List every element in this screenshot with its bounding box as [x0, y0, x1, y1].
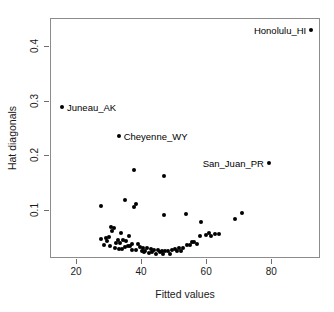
- y-tick-mark: [44, 46, 49, 47]
- x-tick-mark: [76, 259, 77, 264]
- data-point: [147, 251, 151, 255]
- y-tick-mark: [44, 101, 49, 102]
- data-point: [154, 252, 158, 256]
- x-tick-mark: [141, 259, 142, 264]
- y-tick-label: 0.1: [29, 203, 40, 217]
- point-label-san-juan-pr: San_Juan_PR: [203, 158, 264, 169]
- data-point: [102, 243, 106, 247]
- data-point: [113, 246, 117, 250]
- labeled-data-point: [267, 161, 271, 165]
- point-label-juneau-ak: Juneau_AK: [67, 102, 116, 113]
- data-point: [110, 229, 114, 233]
- y-axis-title: Hat diagonals: [6, 106, 18, 170]
- data-point: [168, 252, 172, 256]
- data-point: [130, 248, 134, 252]
- y-tick-mark: [44, 155, 49, 156]
- x-axis-title: Fitted values: [155, 288, 215, 300]
- x-tick-label: 60: [201, 266, 212, 277]
- labeled-data-point: [60, 105, 64, 109]
- data-point: [162, 213, 166, 217]
- data-point: [123, 198, 127, 202]
- data-point: [217, 232, 221, 236]
- x-tick-label: 80: [266, 266, 277, 277]
- data-point: [179, 249, 183, 253]
- data-point: [118, 241, 122, 245]
- data-point: [132, 205, 136, 209]
- data-point: [142, 250, 146, 254]
- data-point: [204, 233, 208, 237]
- data-point: [117, 247, 121, 251]
- data-point: [132, 168, 136, 172]
- data-point: [199, 220, 203, 224]
- data-point: [198, 234, 202, 238]
- data-point: [99, 237, 103, 241]
- y-tick-label: 0.4: [29, 39, 40, 53]
- data-point: [162, 174, 166, 178]
- data-point: [120, 247, 124, 251]
- data-point: [134, 248, 138, 252]
- data-point: [124, 239, 128, 243]
- x-tick-label: 20: [70, 266, 81, 277]
- x-tick-label: 40: [136, 266, 147, 277]
- labeled-data-point: [117, 134, 121, 138]
- x-tick-mark: [206, 259, 207, 264]
- y-tick-label: 0.3: [29, 94, 40, 108]
- point-label-honolulu-hi: Honolulu_HI: [254, 24, 306, 35]
- plot-area: Honolulu_HIJuneau_AKCheyenne_WYSan_Juan_…: [50, 18, 320, 258]
- data-point: [99, 204, 103, 208]
- x-tick-mark: [271, 259, 272, 264]
- data-point: [240, 211, 244, 215]
- labeled-data-point: [309, 28, 313, 32]
- data-point: [127, 234, 131, 238]
- data-point: [108, 244, 112, 248]
- y-tick-label: 0.2: [29, 149, 40, 163]
- point-label-cheyenne-wy: Cheyenne_WY: [124, 131, 188, 142]
- data-point: [188, 243, 192, 247]
- data-point: [209, 234, 213, 238]
- data-point: [195, 242, 199, 246]
- data-point: [119, 231, 123, 235]
- y-tick-mark: [44, 210, 49, 211]
- data-point: [184, 212, 188, 216]
- data-point: [105, 239, 109, 243]
- data-point: [161, 252, 165, 256]
- data-point: [233, 217, 237, 221]
- scatter-plot-figure: Honolulu_HIJuneau_AKCheyenne_WYSan_Juan_…: [0, 0, 334, 312]
